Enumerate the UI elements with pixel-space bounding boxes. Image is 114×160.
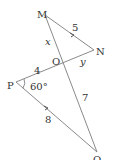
segment-label-po: 4 bbox=[34, 65, 40, 76]
angle-arc-p bbox=[23, 79, 25, 88]
parallel-mark-mn bbox=[70, 33, 74, 37]
geometry-diagram: M N O P Q 5 x y 4 7 8 60° bbox=[0, 0, 114, 160]
vertex-label-o: O bbox=[52, 56, 60, 67]
vertex-label-m: M bbox=[37, 9, 47, 20]
vertex-label-n: N bbox=[96, 46, 105, 57]
segment-label-pq: 8 bbox=[45, 114, 51, 125]
segment-label-on: y bbox=[79, 56, 86, 67]
segment-label-mn: 5 bbox=[72, 22, 78, 33]
vertex-label-q: Q bbox=[93, 154, 101, 160]
segment-label-oq: 7 bbox=[82, 92, 88, 103]
segment-label-mo: x bbox=[45, 36, 51, 47]
angle-label-p: 60° bbox=[30, 81, 48, 92]
segment-mq bbox=[45, 15, 97, 152]
vertex-label-p: P bbox=[7, 80, 14, 91]
segment-mn bbox=[45, 15, 94, 50]
